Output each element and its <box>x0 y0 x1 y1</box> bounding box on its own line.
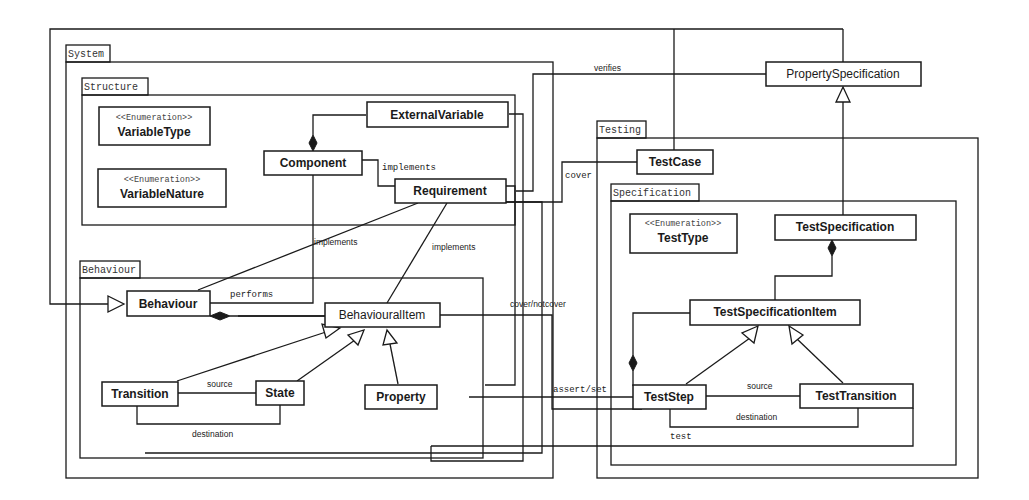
class-name: Transition <box>111 387 168 401</box>
class-name: TestSpecificationItem <box>713 305 836 319</box>
edge-teststep-generalization <box>686 338 750 384</box>
edge-requirement-right <box>485 186 515 385</box>
class-name: VariableType <box>117 125 190 139</box>
composition-diamond-icon <box>828 240 836 256</box>
package-structure-label: Structure <box>84 82 138 93</box>
package-testing-label: Testing <box>599 125 641 136</box>
class-test-transition[interactable]: TestTransition <box>800 384 913 408</box>
edge-label-destination-test: destination <box>736 412 777 422</box>
class-name: Behaviour <box>139 297 198 311</box>
class-requirement[interactable]: Requirement <box>395 179 506 203</box>
edge-label-implements-component: implements <box>382 163 436 173</box>
edge-label-destination-behaviour: destination <box>192 429 233 439</box>
class-name: TestType <box>658 231 709 245</box>
class-name: TestStep <box>644 390 694 404</box>
stereotype-label: <<Enumeration>> <box>116 113 193 123</box>
edge-label-implements-behaviour: implements <box>314 237 357 247</box>
class-external-variable[interactable]: ExternalVariable <box>367 102 508 127</box>
class-name: Property <box>376 390 426 404</box>
class-property-specification[interactable]: PropertySpecification <box>766 62 921 86</box>
class-name: BehaviouralItem <box>339 308 426 322</box>
edge-item-teststep <box>633 313 690 355</box>
edge-label-cover-notcover: cover/notcover <box>510 299 566 309</box>
uml-class-diagram: System Structure Behaviour Testing Speci… <box>0 0 1029 500</box>
class-test-step[interactable]: TestStep <box>633 385 706 409</box>
edge-requirement-item <box>387 203 447 303</box>
class-name: TestTransition <box>815 389 896 403</box>
edge-cover-notcover <box>440 315 642 409</box>
generalization-triangle-icon <box>836 87 850 102</box>
class-name: Requirement <box>413 184 486 198</box>
composition-diamond-icon <box>210 312 230 320</box>
edge-state-generalization <box>297 340 355 381</box>
edge-externalvariable-component <box>313 115 366 135</box>
generalization-triangle-icon <box>108 296 124 312</box>
class-name: State <box>265 386 295 400</box>
edge-testspec-item <box>775 256 832 300</box>
edge-label-assert-set: assert/set <box>553 385 607 395</box>
class-component[interactable]: Component <box>264 151 362 175</box>
edge-label-source-behaviour: source <box>207 379 233 389</box>
class-variable-type[interactable]: <<Enumeration>> VariableType <box>99 107 210 145</box>
generalization-triangle-icon <box>789 326 803 344</box>
generalization-triangle-icon <box>383 330 397 345</box>
class-behavioural-item[interactable]: BehaviouralItem <box>325 303 440 327</box>
edge-label-test: test <box>670 432 692 442</box>
class-test-type[interactable]: <<Enumeration>> TestType <box>630 214 737 253</box>
edge-label-implements-item: implements <box>432 242 475 252</box>
stereotype-label: <<Enumeration>> <box>645 219 722 229</box>
edge-requirement-behaviour <box>198 203 418 290</box>
class-behaviour[interactable]: Behaviour <box>108 291 210 316</box>
edge-destination-behaviour <box>137 405 280 424</box>
class-test-specification[interactable]: TestSpecification <box>775 215 916 240</box>
stereotype-label: <<Enumeration>> <box>124 175 201 185</box>
class-name: TestCase <box>649 155 702 169</box>
edge-label-performs: performs <box>230 290 273 300</box>
package-specification-label: Specification <box>613 188 691 199</box>
class-name: PropertySpecification <box>786 67 899 81</box>
generalization-triangle-icon <box>742 326 758 343</box>
class-variable-nature[interactable]: <<Enumeration>> VariableNature <box>98 169 226 207</box>
edge-externalvariable-property <box>431 114 523 461</box>
edge-label-cover: cover <box>565 171 592 181</box>
class-name: TestSpecification <box>796 220 894 234</box>
edge-testtransition-generalization <box>796 338 843 383</box>
edge-system-behaviour <box>50 29 843 304</box>
class-transition[interactable]: Transition <box>102 382 178 406</box>
class-name: Component <box>280 156 347 170</box>
package-behaviour-label: Behaviour <box>82 265 136 276</box>
class-name: ExternalVariable <box>390 108 484 122</box>
edge-label-verifies: verifies <box>594 63 621 73</box>
class-property[interactable]: Property <box>365 385 437 409</box>
class-state[interactable]: State <box>256 381 304 405</box>
edge-property-generalization <box>390 344 398 384</box>
class-test-specification-item[interactable]: TestSpecificationItem <box>690 300 860 325</box>
composition-diamond-icon <box>629 355 637 371</box>
class-name: VariableNature <box>120 187 204 201</box>
composition-diamond-icon <box>309 135 317 151</box>
package-system-label: System <box>68 49 104 60</box>
edge-label-source-test: source <box>747 381 773 391</box>
class-test-case[interactable]: TestCase <box>637 150 713 174</box>
